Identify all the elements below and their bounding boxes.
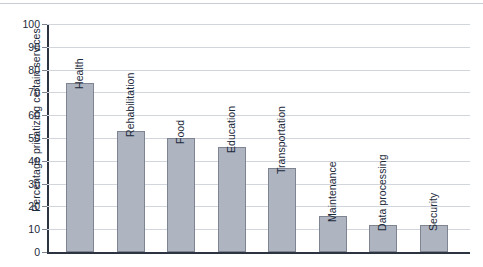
bar-transportation	[268, 168, 296, 252]
bar-label-data-processing: Data processing	[376, 154, 388, 231]
bar-label-transportation: Transportation	[275, 106, 287, 174]
y-tick-mark	[42, 184, 47, 185]
y-tick-mark	[42, 206, 47, 207]
gridline	[47, 161, 470, 162]
bar-label-education: Education	[225, 106, 237, 153]
bar-label-health: Health	[73, 59, 85, 90]
gridline	[47, 24, 470, 25]
gridline	[47, 70, 470, 71]
plot-area: 0102030405060708090100 HealthRehabilitat…	[47, 24, 470, 252]
y-tick-label: 60	[28, 109, 40, 121]
gridline	[47, 206, 470, 207]
y-tick-label: 80	[28, 64, 40, 76]
y-tick-label: 0	[34, 246, 40, 258]
bar-health	[66, 83, 94, 252]
y-tick-label: 50	[28, 132, 40, 144]
bar-label-rehabilitation: Rehabilitation	[124, 73, 136, 137]
bar-label-security: Security	[427, 192, 439, 230]
y-tick-label: 100	[22, 18, 40, 30]
y-tick-mark	[42, 161, 47, 162]
y-tick-label: 90	[28, 41, 40, 53]
x-axis-line	[47, 252, 470, 254]
gridline	[47, 47, 470, 48]
y-tick-mark	[42, 70, 47, 71]
y-tick-mark	[42, 24, 47, 25]
y-tick-label: 40	[28, 155, 40, 167]
bar-education	[218, 147, 246, 252]
y-tick-mark	[42, 138, 47, 139]
y-tick-mark	[42, 252, 47, 253]
y-tick-mark	[42, 92, 47, 93]
bar-chart: Percentage privatizing certain services …	[0, 0, 483, 267]
y-tick-label: 20	[28, 200, 40, 212]
y-tick-label: 30	[28, 178, 40, 190]
gridline	[47, 184, 470, 185]
gridline	[47, 138, 470, 139]
bar-label-maintenance: Maintenance	[326, 161, 338, 222]
gridline	[47, 92, 470, 93]
y-tick-label: 10	[28, 223, 40, 235]
bar-food	[167, 138, 195, 252]
top-divider-rule	[0, 3, 483, 4]
gridline	[47, 229, 470, 230]
y-tick-mark	[42, 47, 47, 48]
bar-label-food: Food	[174, 120, 186, 144]
y-tick-mark	[42, 115, 47, 116]
bar-rehabilitation	[117, 131, 145, 252]
y-tick-label: 70	[28, 86, 40, 98]
gridline	[47, 115, 470, 116]
y-tick-mark	[42, 229, 47, 230]
